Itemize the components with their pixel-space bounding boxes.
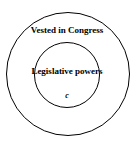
outer-circle-label: Vested in Congress: [0, 25, 134, 35]
inner-circle-label: Legislative powers: [0, 66, 134, 76]
inner-circle-sublabel: c: [0, 91, 134, 100]
